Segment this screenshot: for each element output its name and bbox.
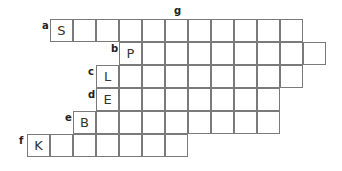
grid-cell-c-8[interactable] — [257, 65, 280, 88]
grid-cell-c-1[interactable]: L — [96, 65, 119, 88]
grid-cell-e-6[interactable] — [188, 111, 211, 134]
grid-cell-c-5[interactable] — [188, 65, 211, 88]
grid-cell-e-5[interactable] — [165, 111, 188, 134]
grid-cell-a-11[interactable] — [280, 19, 303, 42]
row-clue-label-c: c — [88, 67, 94, 77]
row-clue-label-a: a — [42, 21, 49, 31]
grid-cell-a-6[interactable] — [165, 19, 188, 42]
row-clue-label-b: b — [111, 44, 118, 54]
grid-cell-f-6[interactable] — [142, 134, 165, 157]
grid-cell-d-7[interactable] — [234, 88, 257, 111]
column-clue-label-g: g — [174, 6, 181, 16]
grid-cell-d-3[interactable] — [142, 88, 165, 111]
grid-cell-c-2[interactable] — [119, 65, 142, 88]
row-clue-label-d: d — [88, 90, 95, 100]
grid-cell-d-5[interactable] — [188, 88, 211, 111]
grid-cell-b-2[interactable] — [142, 42, 165, 65]
grid-cell-e-2[interactable] — [96, 111, 119, 134]
grid-cell-d-8[interactable] — [257, 88, 280, 111]
grid-cell-a-1[interactable]: S — [50, 19, 73, 42]
grid-cell-b-9[interactable] — [303, 42, 326, 65]
grid-cell-c-6[interactable] — [211, 65, 234, 88]
grid-cell-b-4[interactable] — [188, 42, 211, 65]
grid-cell-b-6[interactable] — [234, 42, 257, 65]
grid-cell-f-3[interactable] — [73, 134, 96, 157]
grid-cell-f-2[interactable] — [50, 134, 73, 157]
grid-cell-f-4[interactable] — [96, 134, 119, 157]
grid-cell-e-3[interactable] — [119, 111, 142, 134]
grid-cell-c-9[interactable] — [280, 65, 303, 88]
grid-cell-b-5[interactable] — [211, 42, 234, 65]
grid-cell-a-3[interactable] — [96, 19, 119, 42]
grid-cell-e-7[interactable] — [211, 111, 234, 134]
grid-cell-d-4[interactable] — [165, 88, 188, 111]
grid-cell-e-4[interactable] — [142, 111, 165, 134]
grid-cell-c-4[interactable] — [165, 65, 188, 88]
grid-cell-a-5[interactable] — [142, 19, 165, 42]
grid-cell-b-1[interactable]: P — [119, 42, 142, 65]
grid-cell-c-3[interactable] — [142, 65, 165, 88]
row-clue-label-f: f — [19, 136, 23, 146]
grid-cell-a-4[interactable] — [119, 19, 142, 42]
grid-cell-a-8[interactable] — [211, 19, 234, 42]
grid-cell-f-5[interactable] — [119, 134, 142, 157]
grid-cell-e-8[interactable] — [234, 111, 257, 134]
row-clue-label-e: e — [65, 113, 72, 123]
grid-cell-d-2[interactable] — [119, 88, 142, 111]
grid-cell-a-2[interactable] — [73, 19, 96, 42]
grid-cell-a-7[interactable] — [188, 19, 211, 42]
grid-cell-c-7[interactable] — [234, 65, 257, 88]
crossword-grid: aSbPcLdEeBfKg — [0, 0, 342, 171]
grid-cell-f-7[interactable] — [165, 134, 188, 157]
grid-cell-b-3[interactable] — [165, 42, 188, 65]
grid-cell-d-1[interactable]: E — [96, 88, 119, 111]
grid-cell-e-9[interactable] — [257, 111, 280, 134]
grid-cell-b-7[interactable] — [257, 42, 280, 65]
grid-cell-d-6[interactable] — [211, 88, 234, 111]
grid-cell-a-10[interactable] — [257, 19, 280, 42]
grid-cell-e-1[interactable]: B — [73, 111, 96, 134]
grid-cell-f-1[interactable]: K — [27, 134, 50, 157]
grid-cell-b-8[interactable] — [280, 42, 303, 65]
grid-cell-a-9[interactable] — [234, 19, 257, 42]
